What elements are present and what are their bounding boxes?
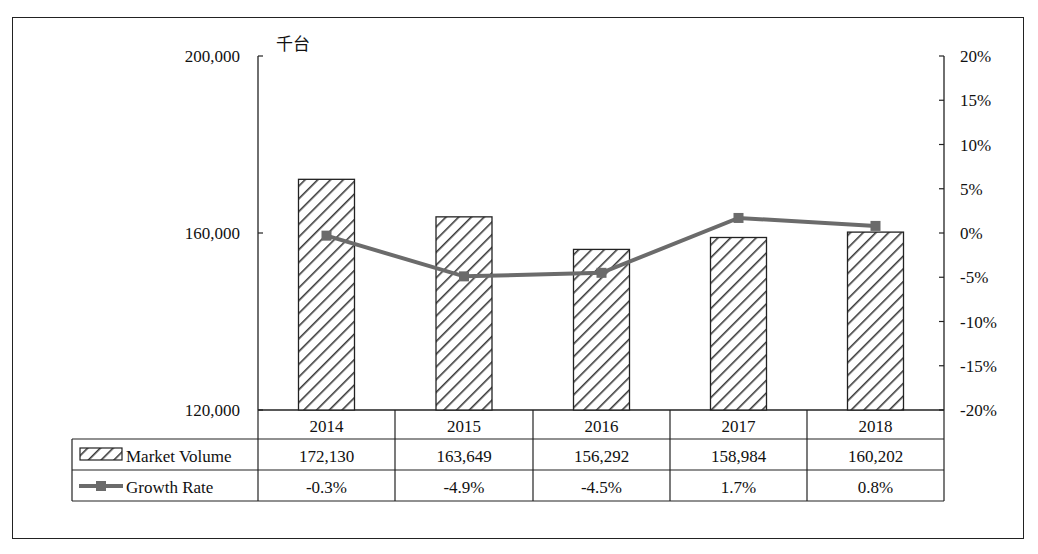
right-tick-label: 0% [960,224,983,243]
growth-rate-cell: -4.9% [443,478,484,497]
market-volume-cell: 160,202 [848,447,903,466]
growth-rate-legend-label: Growth Rate [126,478,213,497]
left-tick-label: 120,000 [185,401,240,420]
growth-rate-cell: -4.5% [581,478,622,497]
market-volume-legend-icon [80,448,122,460]
chart-canvas: 200,000160,000120,000千台20%15%10%5%0%-5%-… [0,0,1038,554]
bar-2018 [848,232,904,410]
bar-2017 [711,237,767,410]
category-label: 2018 [859,417,893,436]
right-tick-label: 10% [960,136,991,155]
market-volume-cell: 158,984 [711,447,767,466]
growth-rate-cell: 1.7% [721,478,756,497]
category-label: 2014 [310,417,345,436]
right-tick-label: 15% [960,91,991,110]
growth-marker-2014 [322,231,332,241]
market-volume-cell: 156,292 [574,447,629,466]
growth-marker-2016 [597,268,607,278]
bar-2015 [436,217,492,410]
category-label: 2015 [447,417,481,436]
right-tick-label: -10% [960,313,997,332]
market-volume-legend-label: Market Volume [126,447,232,466]
category-label: 2017 [722,417,757,436]
right-tick-label: -20% [960,401,997,420]
growth-rate-cell: 0.8% [858,478,893,497]
right-tick-label: -15% [960,357,997,376]
growth-marker-2015 [459,271,469,281]
growth-rate-cell: -0.3% [306,478,347,497]
growth-marker-2018 [871,221,881,231]
right-tick-label: -5% [960,268,988,287]
category-label: 2016 [585,417,619,436]
bar-2014 [299,179,355,410]
unit-label: 千台 [276,35,310,54]
growth-marker-2017 [734,213,744,223]
right-tick-label: 20% [960,47,991,66]
market-volume-cell: 172,130 [299,447,354,466]
left-tick-label: 160,000 [185,224,240,243]
market-volume-cell: 163,649 [436,447,491,466]
left-tick-label: 200,000 [185,47,240,66]
right-tick-label: 5% [960,180,983,199]
